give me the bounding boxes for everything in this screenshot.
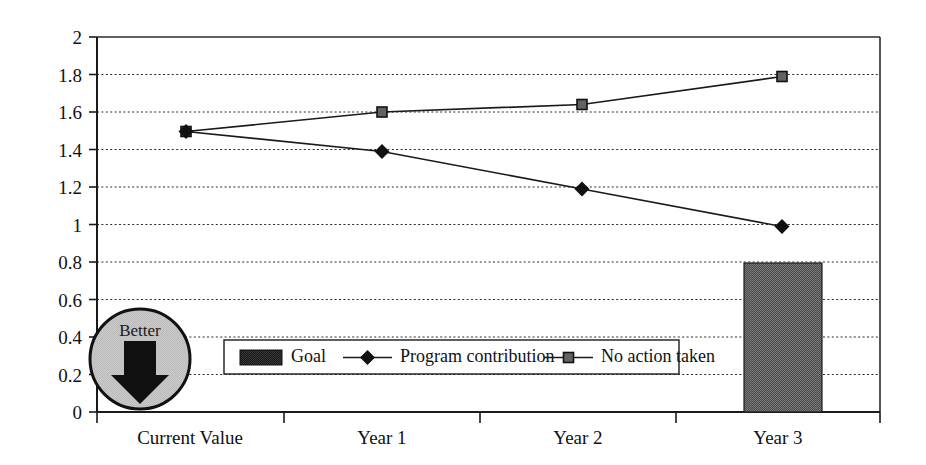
legend-label-goal: Goal bbox=[291, 346, 326, 366]
legend-marker-square-icon bbox=[564, 353, 574, 363]
ytick-label-0.4: 0.4 bbox=[58, 327, 82, 348]
ytick-label-0.8: 0.8 bbox=[58, 252, 82, 273]
ytick-label-0: 0 bbox=[73, 402, 83, 423]
xtick-label-year-1: Year 1 bbox=[357, 427, 406, 448]
legend-label-no-action-taken: No action taken bbox=[601, 346, 715, 366]
xtick-label-current-value: Current Value bbox=[137, 427, 243, 448]
combination-bar-line-chart: 2 1.8 1.6 1.4 1.2 1 0.8 0.6 0.4 0.2 0 bbox=[0, 0, 926, 465]
ytick-label-0.2: 0.2 bbox=[58, 365, 82, 386]
ytick-label-0.6: 0.6 bbox=[58, 290, 82, 311]
xtick-label-year-3: Year 3 bbox=[753, 427, 802, 448]
better-badge-annotation: Better bbox=[90, 309, 190, 409]
better-badge-label: Better bbox=[119, 321, 161, 340]
marker-no-action-year-3 bbox=[777, 72, 787, 82]
chart-container: 2 1.8 1.6 1.4 1.2 1 0.8 0.6 0.4 0.2 0 bbox=[0, 0, 926, 465]
marker-no-action-year-1 bbox=[377, 107, 387, 117]
ytick-label-1: 1 bbox=[73, 215, 83, 236]
ytick-label-1.2: 1.2 bbox=[58, 177, 82, 198]
legend-label-program-contribution: Program contribution bbox=[400, 346, 554, 366]
ytick-label-2: 2 bbox=[73, 27, 83, 48]
ytick-label-1.6: 1.6 bbox=[58, 102, 82, 123]
ytick-label-1.4: 1.4 bbox=[58, 140, 82, 161]
bar-series-goal bbox=[744, 263, 822, 412]
bar-goal-year-3 bbox=[744, 263, 822, 412]
chart-legend: Goal Program contribution No action take… bbox=[224, 340, 715, 374]
marker-no-action-year-2 bbox=[577, 100, 587, 110]
xtick-label-year-2: Year 2 bbox=[553, 427, 602, 448]
legend-swatch-goal bbox=[240, 350, 282, 365]
ytick-label-1.8: 1.8 bbox=[58, 65, 82, 86]
